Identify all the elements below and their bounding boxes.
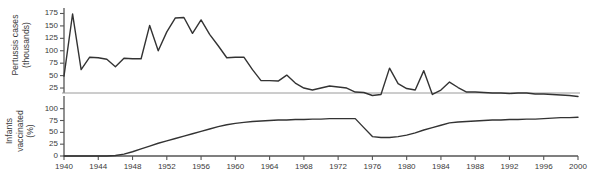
pertussis-y-tick-label: 150 bbox=[24, 21, 58, 30]
chart-figure: Pertussis cases (thousands) Infants vacc… bbox=[0, 0, 591, 185]
vaccinated-y-tick-label: 25 bbox=[24, 139, 58, 148]
chart-plot-area bbox=[0, 0, 591, 185]
pertussis-cases-line bbox=[64, 14, 578, 97]
x-tick-label: 2000 bbox=[558, 162, 591, 171]
vaccinated-y-tick-label: 75 bbox=[24, 116, 58, 125]
pertussis-y-tick-label: 50 bbox=[24, 71, 58, 80]
vaccinated-y-tick-label: 50 bbox=[24, 127, 58, 136]
pertussis-y-tick-label: 175 bbox=[24, 8, 58, 17]
infants-vaccinated-line bbox=[64, 117, 578, 156]
pertussis-y-tick-label: 100 bbox=[24, 46, 58, 55]
pertussis-y-tick-label: 125 bbox=[24, 33, 58, 42]
vaccinated-y-tick-label: 0 bbox=[24, 151, 58, 160]
pertussis-y-tick-label: 25 bbox=[24, 83, 58, 92]
vaccinated-y-tick-label: 100 bbox=[24, 104, 58, 113]
pertussis-y-tick-label: 75 bbox=[24, 58, 58, 67]
